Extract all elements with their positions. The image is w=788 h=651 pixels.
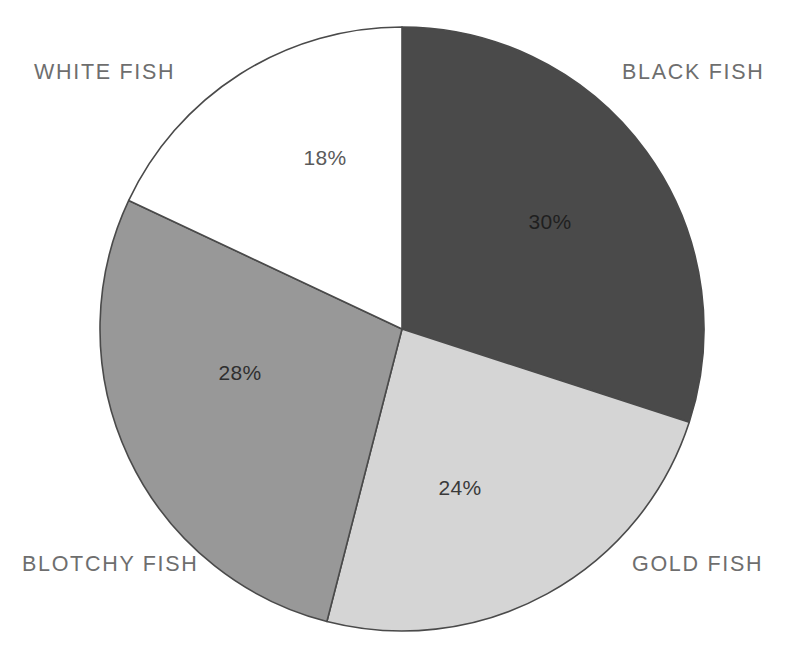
pie-category-label-white-fish: WHITE FISH [34,60,175,85]
pie-category-label-blotchy-fish: BLOTCHY FISH [22,552,199,577]
pie-value-label-black-fish: 30% [528,210,571,233]
pie-category-label-gold-fish: GOLD FISH [632,552,763,577]
pie-chart: 30%24%28%18% WHITE FISH BLACK FISH BLOTC… [0,0,788,651]
pie-slice-group [100,27,704,631]
pie-category-label-black-fish: BLACK FISH [622,60,764,85]
pie-value-label-gold-fish: 24% [438,476,481,499]
pie-value-label-blotchy-fish: 28% [218,361,261,384]
pie-value-label-white-fish: 18% [303,146,346,169]
